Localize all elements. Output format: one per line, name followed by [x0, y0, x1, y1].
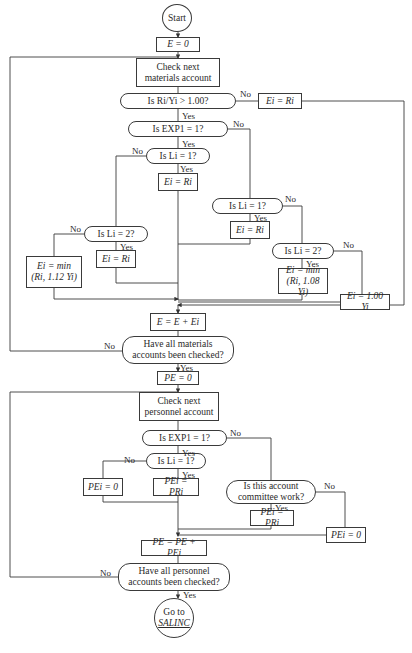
- exp1-pers-yes-label-text: Yes: [182, 448, 195, 458]
- goto-target-label: SALINC: [158, 618, 190, 629]
- committee-yes-label-text: Yes: [275, 503, 288, 513]
- exp1-personnel-decision: Is EXP1 = 1?: [142, 430, 227, 446]
- goto-salinc-terminal: Go to SALINC: [154, 598, 194, 638]
- e-accumulate-box: E = E + Ei: [150, 313, 206, 331]
- e-accumulate-label: E = E + Ei: [157, 317, 199, 328]
- all-materials-no-label-text: No: [104, 341, 115, 351]
- all-materials-decision: Have all materials accounts been checked…: [122, 336, 234, 364]
- exp1-mat-no-label-text: No: [233, 119, 244, 129]
- l2-right-no-label-text: No: [343, 240, 354, 250]
- l1-right-decision: Is Li = 1?: [212, 198, 283, 214]
- l1-left-yes-label: Ei = Ri: [164, 177, 192, 188]
- l1-personnel-decision: Is Li = 1?: [146, 453, 206, 469]
- pers-l1-yes-box: PEi = PRi: [153, 478, 199, 496]
- ratio-no-label: Ei = Ri: [266, 96, 294, 107]
- l1-pers-no-label-text: No: [124, 455, 135, 465]
- committee-question: Is this account committee work?: [230, 481, 312, 503]
- pers-l1-no-box: PEi = 0: [83, 478, 123, 496]
- ratio-yes-label-text: Yes: [182, 111, 195, 121]
- l2-right-yes-label: Ei = min (Ri, 1.08 Yi): [282, 265, 324, 298]
- ratio-no-box: Ei = Ri: [258, 93, 302, 109]
- l2-right-no-label: Ei = 1.00 Yi: [344, 291, 386, 313]
- exp1-personnel-question: Is EXP1 = 1?: [159, 433, 210, 444]
- exp1-mat-yes-label-text: Yes: [182, 139, 195, 149]
- start-label: Start: [168, 13, 186, 24]
- committee-decision: Is this account committee work?: [226, 480, 316, 504]
- pe-accumulate-label: PE = PE + PEi: [145, 537, 203, 559]
- exp1-pers-no-label-text: No: [230, 428, 241, 438]
- l2-left-yes-box: Ei = Ri: [96, 250, 136, 268]
- l2-left-no-label: Ei = min (Ri, 1.12 Yi): [30, 261, 78, 283]
- goto-label: Go to: [163, 607, 184, 618]
- l1-right-yes-label: Ei = Ri: [236, 225, 264, 236]
- l2-right-yes-label-text: Yes: [306, 259, 319, 269]
- pers-l1-no-label: PEi = 0: [88, 482, 118, 493]
- ratio-question: Is Ri/Yi > 1.00?: [148, 96, 209, 107]
- check-personnel-box: Check next personnel account: [139, 392, 219, 421]
- committee-no-label: PEi = 0: [331, 530, 361, 541]
- committee-no-label-text: No: [324, 481, 335, 491]
- l2-left-yes-label-text: Yes: [120, 242, 133, 252]
- l1-left-question: Is Li = 1?: [160, 151, 197, 162]
- l2-right-yes-box: Ei = min (Ri, 1.08 Yi): [278, 268, 328, 294]
- l1-left-no-label-text: No: [132, 146, 143, 156]
- exp1-materials-decision: Is EXP1 = 1?: [128, 121, 228, 137]
- l2-right-no-box: Ei = 1.00 Yi: [340, 294, 390, 310]
- l1-right-yes-box: Ei = Ri: [230, 221, 270, 239]
- check-materials-box: Check next materials account: [136, 58, 220, 87]
- init-pe-box: PE = 0: [157, 371, 199, 385]
- check-materials-label: Check next materials account: [140, 62, 216, 84]
- all-materials-yes-label-text: Yes: [180, 363, 193, 373]
- ratio-decision: Is Ri/Yi > 1.00?: [120, 93, 236, 109]
- l1-left-decision: Is Li = 1?: [146, 148, 210, 164]
- l1-right-yes-label-text: Yes: [254, 213, 267, 223]
- all-materials-question: Have all materials accounts been checked…: [126, 339, 230, 361]
- l1-pers-yes-label-text: Yes: [182, 470, 195, 480]
- l2-left-yes-label: Ei = Ri: [102, 254, 130, 265]
- l2-left-no-label-text: No: [70, 224, 81, 234]
- ratio-no-label-text: No: [240, 89, 251, 99]
- all-personnel-yes-label-text: Yes: [183, 590, 196, 600]
- init-e-label: E = 0: [167, 39, 189, 50]
- l2-left-decision: Is Li = 2?: [84, 226, 148, 242]
- all-personnel-decision: Have all personnel accounts been checked…: [118, 563, 230, 591]
- exp1-materials-question: Is EXP1 = 1?: [152, 124, 203, 135]
- committee-no-box: PEi = 0: [326, 527, 366, 543]
- all-personnel-question: Have all personnel accounts been checked…: [122, 566, 226, 588]
- l2-right-question: Is Li = 2?: [285, 246, 322, 257]
- l2-left-question: Is Li = 2?: [98, 229, 135, 240]
- l1-left-yes-label-text: Yes: [180, 164, 193, 174]
- l2-left-no-box: Ei = min (Ri, 1.12 Yi): [26, 256, 82, 288]
- pe-accumulate-box: PE = PE + PEi: [141, 540, 207, 556]
- init-pe-label: PE = 0: [164, 373, 192, 384]
- l1-left-yes-box: Ei = Ri: [158, 173, 198, 191]
- l2-right-decision: Is Li = 2?: [272, 243, 334, 259]
- start-terminal: Start: [162, 4, 192, 32]
- l1-right-no-label-text: No: [285, 194, 296, 204]
- l1-right-question: Is Li = 1?: [229, 201, 266, 212]
- init-e-box: E = 0: [156, 37, 200, 52]
- all-personnel-no-label-text: No: [100, 568, 111, 578]
- check-personnel-label: Check next personnel account: [143, 396, 215, 418]
